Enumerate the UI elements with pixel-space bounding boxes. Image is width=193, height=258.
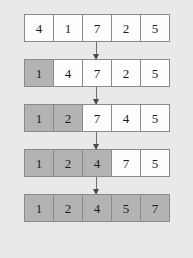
selection-sort-diagram: 4172514725127451247512457 — [0, 0, 193, 258]
array-cell-sorted: 1 — [25, 195, 54, 221]
step-arrow-down-icon — [96, 132, 97, 149]
step-arrow-down-icon — [96, 87, 97, 104]
array-cell: 7 — [83, 105, 112, 131]
array-row: 14725 — [24, 59, 170, 87]
array-cell: 4 — [112, 105, 141, 131]
array-cell: 7 — [112, 150, 141, 176]
array-cell-sorted: 7 — [141, 195, 169, 221]
array-cell: 2 — [112, 60, 141, 86]
array-cell: 5 — [141, 15, 169, 41]
step-arrow-down-icon — [96, 42, 97, 59]
array-cell: 2 — [112, 15, 141, 41]
array-cell: 1 — [54, 15, 83, 41]
array-cell-sorted: 2 — [54, 150, 83, 176]
array-cell: 5 — [141, 150, 169, 176]
array-cell-sorted: 5 — [112, 195, 141, 221]
array-cell: 7 — [83, 60, 112, 86]
array-cell-sorted: 4 — [83, 150, 112, 176]
array-cell: 7 — [83, 15, 112, 41]
array-row: 12475 — [24, 149, 170, 177]
array-cell-sorted: 1 — [25, 150, 54, 176]
array-row: 41725 — [24, 14, 170, 42]
array-cell: 5 — [141, 60, 169, 86]
array-row: 12745 — [24, 104, 170, 132]
array-cell: 4 — [25, 15, 54, 41]
array-cell-sorted: 4 — [83, 195, 112, 221]
array-cell-sorted: 1 — [25, 105, 54, 131]
array-cell-sorted: 2 — [54, 195, 83, 221]
array-cell: 5 — [141, 105, 169, 131]
array-row: 12457 — [24, 194, 170, 222]
array-cell-sorted: 1 — [25, 60, 54, 86]
array-cell: 4 — [54, 60, 83, 86]
step-arrow-down-icon — [96, 177, 97, 194]
array-cell-sorted: 2 — [54, 105, 83, 131]
